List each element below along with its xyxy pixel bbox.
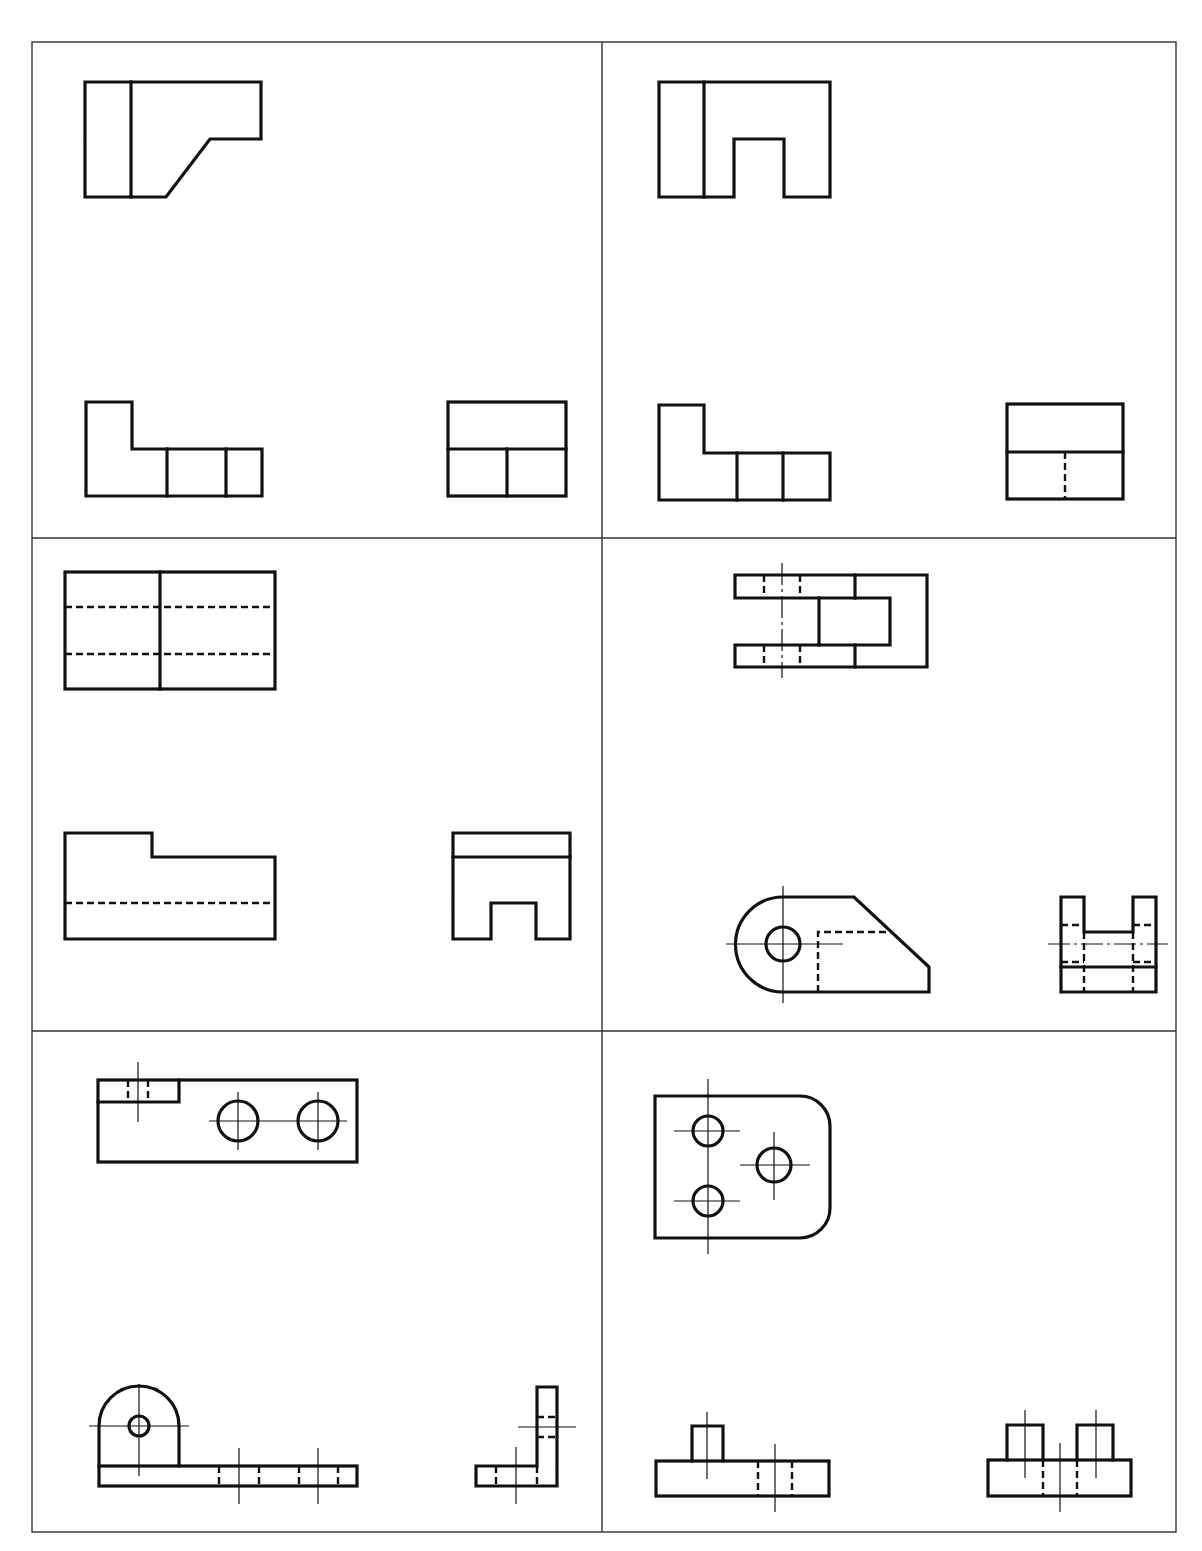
exercise-1: [85, 82, 566, 496]
ex2-top-view: [659, 82, 830, 197]
ex6-side-view: [988, 1410, 1131, 1512]
grid-frame: [32, 42, 1176, 1532]
ex1-front-view: [86, 402, 262, 496]
ex6-front-view: [656, 1412, 829, 1512]
exercise-6: [655, 1079, 1131, 1512]
ex4-side-view: [1048, 897, 1168, 992]
ex2-front-view: [659, 405, 830, 500]
ex3-top-view: [65, 572, 275, 689]
exercise-3: [65, 572, 570, 939]
exercise-2: [659, 82, 1123, 500]
ex4-top-view: [735, 563, 927, 678]
ex6-top-view: [655, 1079, 830, 1254]
ex4-front-view: [726, 886, 929, 1003]
ex2-side-view: [1007, 404, 1123, 499]
ex3-side-view: [453, 833, 570, 939]
ex1-top-view: [85, 82, 261, 197]
exercise-4: [726, 563, 1168, 1003]
ex5-side-view: [476, 1387, 576, 1504]
drawing-sheet: [0, 0, 1202, 1551]
ex5-front-view: [89, 1384, 357, 1504]
ex5-top-view: [98, 1062, 357, 1162]
exercise-5: [89, 1062, 576, 1504]
ex1-side-view: [448, 402, 566, 496]
ex3-front-view: [65, 833, 275, 939]
